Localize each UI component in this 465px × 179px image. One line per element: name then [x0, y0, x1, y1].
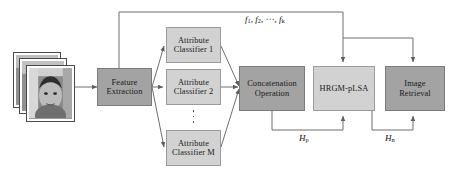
vertical-ellipsis-icon	[192, 110, 195, 123]
node-feature-extraction[interactable]: Feature Extraction	[97, 68, 152, 106]
face-image-stack	[14, 53, 74, 121]
node-attribute-classifier-2[interactable]: Attribute Classifier 2	[166, 69, 221, 105]
label-feature-vector: f1, f2, ⋯, fk	[245, 14, 285, 24]
node-hrgm-plsa[interactable]: HRGM-pLSA	[313, 66, 375, 111]
label-hn: Hn	[385, 133, 395, 143]
node-image-retrieval-label: Image Retrieval	[399, 79, 431, 98]
diagram-canvas: Feature Extraction Attribute Classifier …	[0, 0, 465, 179]
face-photo-front	[27, 66, 74, 121]
node-image-retrieval[interactable]: Image Retrieval	[385, 66, 445, 111]
wire-hp-concat-to-hrgm	[272, 111, 343, 130]
node-concatenation-operation[interactable]: Concatenation Operation	[239, 66, 305, 111]
node-attribute-classifier-1[interactable]: Attribute Classifier 1	[166, 27, 221, 63]
label-hp: Hp	[299, 133, 309, 143]
node-concatenation-operation-label: Concatenation Operation	[247, 79, 297, 98]
wire-feature-to-ac1	[152, 46, 164, 87]
node-hrgm-plsa-label: HRGM-pLSA	[320, 84, 369, 93]
node-feature-extraction-label: Feature Extraction	[107, 78, 143, 97]
node-attribute-classifier-m[interactable]: Attribute Classifier M	[166, 130, 221, 166]
wire-feature-top-bus	[119, 12, 343, 68]
wire-ac1-to-concat	[221, 46, 239, 86]
node-attribute-classifier-1-label: Attribute Classifier 1	[174, 36, 214, 55]
wire-hn-hrgm-to-retrieval	[372, 111, 413, 130]
wire-feature-to-acm	[152, 87, 164, 147]
node-attribute-classifier-m-label: Attribute Classifier M	[172, 139, 215, 158]
wire-acm-to-concat	[221, 89, 239, 147]
wire-bus-to-retrieval	[343, 38, 413, 62]
node-attribute-classifier-2-label: Attribute Classifier 2	[174, 78, 214, 97]
